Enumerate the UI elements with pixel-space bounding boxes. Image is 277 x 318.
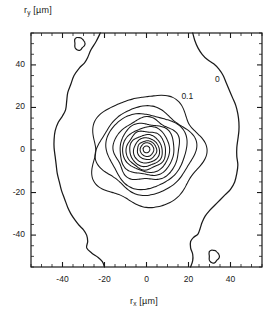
- y-tick-label: 0: [3, 144, 25, 154]
- x-tick-label: 40: [218, 274, 244, 284]
- contour-level-label: 0.1: [181, 91, 193, 101]
- y-tick-label: 20: [3, 101, 25, 111]
- x-tick-label: -20: [92, 274, 118, 284]
- x-tick-label: 20: [176, 274, 202, 284]
- contour-plot: [0, 0, 277, 318]
- y-tick-label: -20: [3, 187, 25, 197]
- contour-level-label: 0: [215, 74, 220, 84]
- x-tick-label: -40: [50, 274, 76, 284]
- y-tick-label: 40: [3, 59, 25, 69]
- y-tick-label: -40: [3, 229, 25, 239]
- x-tick-label: 0: [134, 274, 160, 284]
- plot-frame: [31, 33, 262, 267]
- contour-lines: [54, 33, 239, 267]
- axis-ticks: [31, 33, 262, 267]
